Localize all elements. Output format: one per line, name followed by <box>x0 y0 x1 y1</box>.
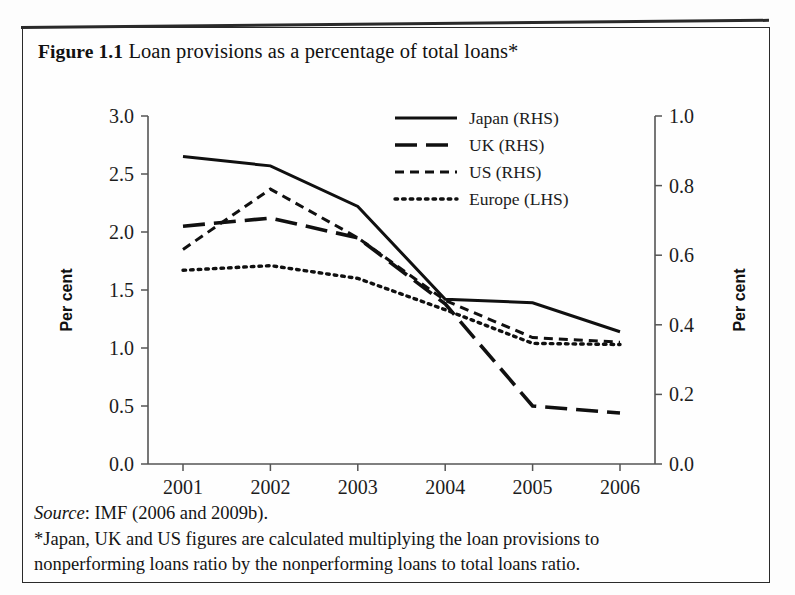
x-tick-label: 2003 <box>338 476 378 498</box>
series-line-europe <box>183 266 620 345</box>
y-tick-label-left: 3.0 <box>109 105 134 127</box>
y-tick-label-right: 0.8 <box>669 175 694 197</box>
x-tick-label: 2005 <box>513 476 553 498</box>
scanned-figure-page: Figure 1.1 Loan provisions as a percenta… <box>0 0 795 595</box>
y-tick-label-right: 1.0 <box>669 105 694 127</box>
y-axis-title-left: Per cent <box>58 268 75 332</box>
series-line-japan <box>183 157 620 332</box>
x-tick-label: 2006 <box>600 476 640 498</box>
footnote-line-2: nonperforming loans ratio by the nonperf… <box>34 552 756 577</box>
y-tick-label-left: 1.5 <box>109 279 134 301</box>
x-tick-label: 2004 <box>425 476 465 498</box>
y-tick-label-right: 0.0 <box>669 453 694 475</box>
legend-label-us: US (RHS) <box>469 162 542 182</box>
y-tick-label-left: 2.5 <box>109 163 134 185</box>
x-tick-label: 2001 <box>163 476 203 498</box>
y-tick-label-right: 0.4 <box>669 314 694 336</box>
legend-label-uk: UK (RHS) <box>469 135 545 155</box>
y-tick-label-left: 1.0 <box>109 337 134 359</box>
source-text: : IMF (2006 and 2009b). <box>85 503 268 523</box>
series-line-us <box>183 189 620 342</box>
source-label: Source <box>34 503 85 523</box>
y-axis-title-right: Per cent <box>731 268 748 332</box>
y-tick-label-right: 0.2 <box>669 383 694 405</box>
y-tick-label-left: 0.0 <box>109 453 134 475</box>
footnote: *Japan, UK and US figures are calculated… <box>34 527 756 577</box>
legend-label-japan: Japan (RHS) <box>469 108 559 128</box>
source-note: Source: IMF (2006 and 2009b). <box>34 503 750 524</box>
legend-label-europe: Europe (LHS) <box>469 189 569 209</box>
y-tick-label-left: 0.5 <box>109 395 134 417</box>
x-tick-label: 2002 <box>250 476 290 498</box>
y-tick-label-right: 0.6 <box>669 244 694 266</box>
series-line-uk <box>183 218 620 413</box>
y-tick-label-left: 2.0 <box>109 221 134 243</box>
footnote-line-1: *Japan, UK and US figures are calculated… <box>34 529 599 549</box>
